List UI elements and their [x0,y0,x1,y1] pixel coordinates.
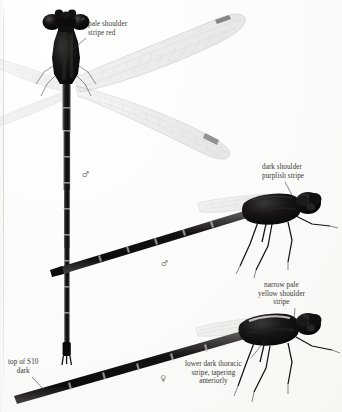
legs-lateral-male [240,216,330,270]
thorax-lateral-male [242,193,302,224]
pterostigma [203,133,219,145]
wings-folded-male [198,194,285,212]
leader-line-narrow-pale-yellow-shoulder-stripe [294,308,295,320]
leader-line-lower-dark-thoracic-stripe [251,341,265,358]
plate-page: pale shoulder stripe reddark shoulder pu… [0,0,342,412]
wing-lower-right [76,86,230,159]
leader-line-top-of-s10-dark [32,377,44,390]
segment-s10 [63,342,71,356]
specimen-artwork [0,0,342,412]
head-dorsal [43,10,90,31]
annotation-top-of-s10-dark: top of S10 dark [8,358,38,375]
abdomen-dorsal [62,84,71,365]
sex-symbol-male-middle: ♂ [161,259,168,268]
thorax-dorsal [52,26,80,84]
annotation-pale-shoulder-stripe-red: pale shoulder stripe red [88,20,127,37]
wings-folded-female [196,317,283,336]
wing-lower-left [0,90,70,126]
annotation-dark-shoulder-purplish-stripe: dark shoulder purplish stripe [262,163,304,180]
annotation-narrow-pale-yellow-shoulder-stripe: narrow pale yellow shoulder stripe [258,281,305,307]
leader-line-pale-shoulder-stripe-red [70,38,86,52]
legs-dorsal [36,64,96,96]
specimen-dorsal-male [0,10,245,366]
head-lateral-male [295,192,322,214]
pterostigma [215,15,231,24]
legs-lateral-female [238,337,332,392]
leader-lines [32,38,295,390]
annotation-lower-dark-thoracic-stripe: lower dark thoracic stripe, tapering ant… [185,360,242,386]
pale-shoulder-stripe [249,316,290,321]
lower-dark-thoracic-stripe [247,329,294,333]
specimen-lateral-female [14,313,340,404]
sex-symbol-male-top: ♂ [82,170,89,179]
head-lateral-female [295,313,322,335]
page-gutter-line [3,0,4,412]
wing-upper-left [0,59,70,91]
thorax-lateral-female [238,313,299,345]
abdomen-lateral-male [50,211,247,277]
leader-line-dark-shoulder-purplish-stripe [285,182,293,197]
specimen-lateral-male [50,192,338,278]
sex-symbol-female-bottom: ♀ [160,374,166,383]
